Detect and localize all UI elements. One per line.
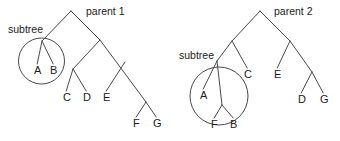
node-label-leaf-f: F [133, 117, 140, 129]
edge-root-to-n-left [232, 11, 260, 41]
tree-title-parent-1: parent 1 [86, 5, 125, 17]
edge-n-e-to-leaf-e [106, 62, 125, 91]
node-label-leaf-c: C [63, 91, 71, 103]
edge-n-right-to-n-dg [290, 41, 312, 72]
node-label-leaf-f: F [211, 118, 218, 130]
edge-n-fg-to-leaf-f [136, 102, 146, 117]
node-label-leaf-d: D [298, 93, 306, 105]
edge-n-right-to-leaf-e [277, 41, 290, 68]
node-label-leaf-a: A [200, 89, 208, 101]
node-label-leaf-b: B [230, 118, 237, 130]
node-label-leaf-d: D [83, 91, 91, 103]
node-label-leaf-a: A [34, 64, 42, 76]
edge-n-sub-to-n-fb [217, 61, 222, 105]
node-label-leaf-g: G [153, 117, 162, 129]
tree-parent-1: ABCDEFGsubtreeparent 1 [8, 5, 162, 129]
node-label-leaf-g: G [320, 93, 329, 105]
diagram-canvas: ABCDEFGsubtreeparent 1AFBCEDGsubtreepare… [0, 0, 340, 141]
crossover-subtree-diagram: ABCDEFGsubtreeparent 1AFBCEDGsubtreepare… [0, 0, 340, 141]
edge-n-left-to-n-sub [217, 41, 232, 61]
tree-parent-2: AFBCEDGsubtreeparent 2 [179, 5, 329, 130]
edge-n-sub-to-leaf-b [42, 41, 53, 64]
edge-n-cd-to-leaf-d [73, 69, 86, 91]
edge-n-fb-to-leaf-f [214, 105, 222, 118]
edge-n-fb-to-leaf-b [222, 105, 233, 118]
node-label-leaf-e: E [103, 91, 110, 103]
edge-n-dg-to-leaf-d [301, 72, 312, 93]
edge-n-right-to-n-cd [73, 40, 100, 69]
edge-n-sub-to-leaf-a [37, 41, 42, 64]
subtree-annotation-label: subtree [8, 23, 43, 35]
edge-n-dg-to-leaf-g [312, 72, 323, 93]
edge-n-cd-to-leaf-c [66, 69, 73, 91]
edge-root-to-n-sub [42, 11, 71, 41]
node-label-leaf-c: C [244, 68, 252, 80]
tree-title-parent-2: parent 2 [274, 5, 313, 17]
subtree-annotation-label: subtree [179, 49, 214, 61]
node-label-leaf-e: E [274, 68, 281, 80]
node-label-leaf-b: B [50, 64, 57, 76]
edge-n-sub-to-leaf-a [203, 61, 217, 89]
edge-n-left-to-leaf-c [232, 41, 247, 68]
edge-n-fg-to-leaf-g [146, 102, 156, 117]
